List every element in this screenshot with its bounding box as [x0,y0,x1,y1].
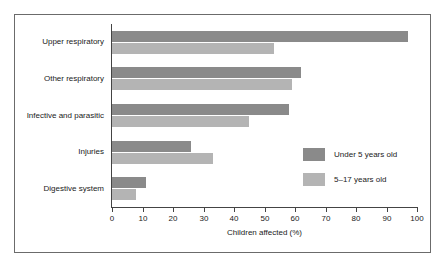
x-tick-label: 0 [97,214,127,223]
legend-label-under-5: Under 5 years old [334,150,397,159]
x-tick-label: 90 [372,214,402,223]
x-tick [265,208,266,212]
bar [112,153,213,164]
bar [112,43,274,54]
x-tick-label: 100 [402,214,432,223]
x-tick-label: 40 [219,214,249,223]
legend-item-under-5: Under 5 years old [303,148,428,161]
x-tick [417,208,418,212]
category-label: Other respiratory [0,74,104,83]
bar [112,177,146,188]
legend-swatch-under-5 [303,148,325,161]
x-tick-label: 30 [189,214,219,223]
bar [112,189,136,200]
x-tick [143,208,144,212]
x-tick [173,208,174,212]
category-label: Injuries [0,147,104,156]
x-tick [326,208,327,212]
chart-legend: Under 5 years old 5–17 years old [303,148,428,198]
x-tick [387,208,388,212]
bar [112,31,408,42]
x-tick-label: 80 [341,214,371,223]
x-tick-label: 20 [158,214,188,223]
legend-item-5-to-17: 5–17 years old [303,173,428,186]
x-tick-label: 10 [128,214,158,223]
x-tick-label: 60 [280,214,310,223]
x-tick [356,208,357,212]
bar [112,141,191,152]
bar [112,104,289,115]
x-tick-label: 70 [311,214,341,223]
x-tick [234,208,235,212]
legend-label-5-to-17: 5–17 years old [334,175,386,184]
bar [112,79,292,90]
x-axis-title: Children affected (%) [112,228,417,237]
category-label: Infective and parasitic [0,111,104,120]
category-label: Upper respiratory [0,37,104,46]
legend-swatch-5-to-17 [303,173,325,186]
category-label: Digestive system [0,184,104,193]
bar [112,116,249,127]
x-tick-label: 50 [250,214,280,223]
bar [112,67,301,78]
x-tick [295,208,296,212]
chart-figure: 0102030405060708090100 Upper respiratory… [14,14,431,253]
x-tick [204,208,205,212]
x-tick [112,208,113,212]
